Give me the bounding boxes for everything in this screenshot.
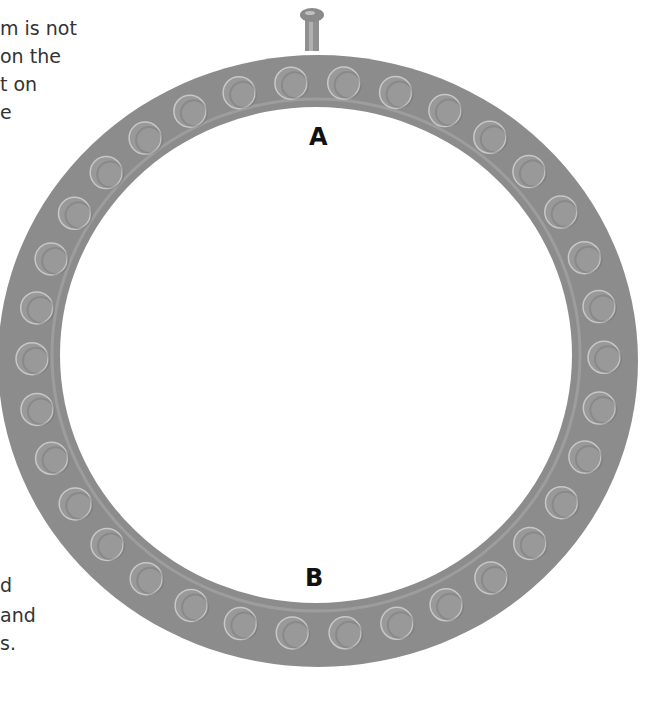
text-line: s. — [0, 632, 16, 654]
label-b: B — [305, 564, 323, 592]
text-line: on the — [0, 45, 61, 67]
label-a: A — [309, 123, 328, 151]
text-line: and — [0, 604, 36, 626]
text-line: d — [0, 574, 12, 596]
text-line: e — [0, 101, 12, 123]
ring-band — [0, 0, 651, 703]
text-line: m is not — [0, 17, 77, 39]
ring-illustration — [0, 0, 651, 703]
text-line: t on — [0, 73, 37, 95]
